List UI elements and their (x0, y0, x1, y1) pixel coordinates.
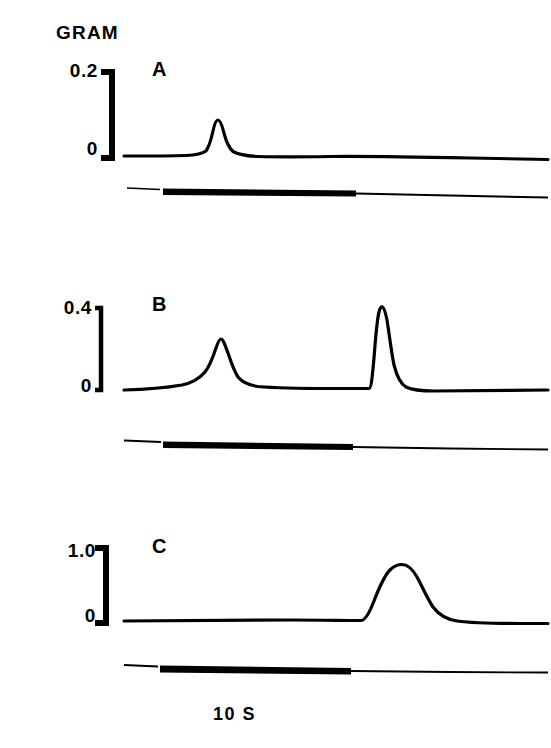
panel-letter-c: C (152, 535, 166, 558)
panel-b-tension-trace (124, 307, 548, 392)
time-scale-label: 10 S (213, 704, 256, 725)
panel-b-stimulus-bar (124, 441, 548, 451)
panel-c-calibration-bracket (95, 548, 106, 623)
panel-a-stimulus-bar (127, 188, 548, 198)
panel-a-calibration-bracket (101, 72, 112, 158)
figure-root: GRAM 0.2 0 A 0.4 0 B 1.0 0 C 10 S (0, 0, 551, 748)
panel-c-cal-top-label: 1.0 (34, 540, 96, 562)
panel-letter-a: A (152, 58, 166, 81)
panel-c-stimulus-bar (124, 665, 548, 675)
panel-b-calibration-bracket (95, 308, 101, 390)
panel-c-tension-trace (124, 565, 548, 624)
panel-letter-b: B (152, 293, 166, 316)
figure-canvas (0, 0, 551, 748)
panel-a-tension-trace (124, 120, 548, 160)
panel-c-cal-zero-label: 0 (34, 605, 96, 627)
axis-unit-title: GRAM (56, 22, 119, 44)
panel-b-cal-zero-label: 0 (34, 375, 92, 397)
panel-b-cal-top-label: 0.4 (34, 297, 92, 319)
panel-a-cal-top-label: 0.2 (40, 60, 98, 82)
panel-a-cal-zero-label: 0 (40, 138, 98, 160)
